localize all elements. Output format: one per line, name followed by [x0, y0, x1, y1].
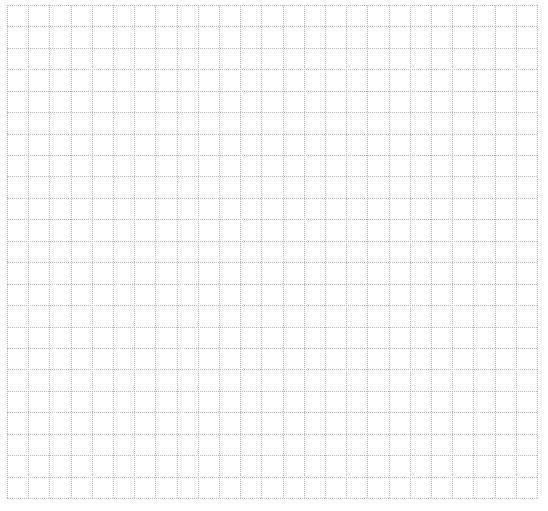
grid-horizontal-line — [7, 327, 537, 328]
grid-vertical-line — [283, 5, 284, 498]
grid-horizontal-line — [7, 26, 537, 27]
grid-vertical-line — [367, 5, 368, 498]
grid-vertical-line — [155, 5, 156, 498]
grid-vertical-line — [389, 5, 390, 498]
grid-vertical-line — [304, 5, 305, 498]
grid-horizontal-line — [7, 412, 537, 413]
grid-horizontal-line — [7, 176, 537, 177]
grid-vertical-line — [7, 5, 8, 498]
grid-horizontal-line — [7, 284, 537, 285]
grid-vertical-line — [452, 5, 453, 498]
grid-horizontal-line — [7, 498, 537, 499]
grid-horizontal-line — [7, 134, 537, 135]
grid-horizontal-line — [7, 348, 537, 349]
grid-vertical-line — [261, 5, 262, 498]
grid-vertical-line — [240, 5, 241, 498]
grid-horizontal-line — [7, 155, 537, 156]
grid-vertical-line — [113, 5, 114, 498]
grid-vertical-line — [325, 5, 326, 498]
grid-horizontal-line — [7, 305, 537, 306]
grid-horizontal-line — [7, 391, 537, 392]
grid-vertical-line — [473, 5, 474, 498]
grid-horizontal-line — [7, 198, 537, 199]
grid-vertical-line — [71, 5, 72, 498]
grid-horizontal-line — [7, 69, 537, 70]
grid-vertical-line — [495, 5, 496, 498]
grid-vertical-line — [198, 5, 199, 498]
grid-vertical-line — [92, 5, 93, 498]
grid-horizontal-line — [7, 91, 537, 92]
grid-vertical-line — [346, 5, 347, 498]
grid-vertical-line — [134, 5, 135, 498]
grid-vertical-line — [410, 5, 411, 498]
grid-vertical-line — [49, 5, 50, 498]
grid-vertical-line — [177, 5, 178, 498]
grid-horizontal-line — [7, 112, 537, 113]
grid-horizontal-line — [7, 262, 537, 263]
grid-vertical-line — [537, 5, 538, 498]
grid-horizontal-line — [7, 455, 537, 456]
grid-horizontal-line — [7, 5, 537, 6]
grid-vertical-line — [431, 5, 432, 498]
grid-horizontal-line — [7, 48, 537, 49]
grid-vertical-line — [516, 5, 517, 498]
graph-paper-grid — [7, 5, 537, 498]
grid-vertical-line — [28, 5, 29, 498]
grid-horizontal-line — [7, 219, 537, 220]
grid-horizontal-line — [7, 477, 537, 478]
grid-horizontal-line — [7, 434, 537, 435]
grid-vertical-line — [219, 5, 220, 498]
grid-horizontal-line — [7, 369, 537, 370]
grid-horizontal-line — [7, 241, 537, 242]
